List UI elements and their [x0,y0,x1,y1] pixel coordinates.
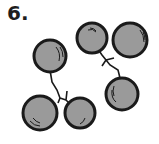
berry [34,40,66,72]
berry [77,23,107,53]
berry-clusters-illustration [0,0,159,144]
left-cluster [23,40,95,130]
berry [113,23,147,57]
berry [106,78,138,110]
berry [23,96,57,130]
right-cluster [77,23,147,110]
